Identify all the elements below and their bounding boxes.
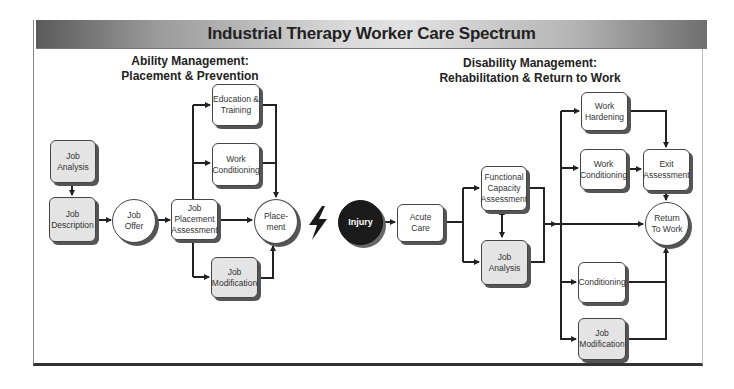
disability-heading-line1: Disability Management: bbox=[420, 56, 640, 71]
job-modification-left-label: Job Modification bbox=[212, 267, 257, 289]
job-offer-label: Job Offer bbox=[125, 210, 144, 232]
ability-management-heading: Ability Management: Placement & Preventi… bbox=[100, 54, 280, 84]
job-placement-assessment-box: Job Placement Assessment bbox=[171, 199, 218, 240]
work-conditioning-left-label: Work Conditioning bbox=[212, 154, 259, 176]
diagram-title: Industrial Therapy Worker Care Spectrum bbox=[207, 24, 535, 44]
job-modification-left-box: Job Modification bbox=[211, 257, 258, 298]
placement-circle: Place- ment bbox=[254, 199, 298, 244]
job-placement-assessment-label: Job Placement Assessment bbox=[171, 203, 217, 236]
job-analysis-label: Job Analysis bbox=[57, 151, 89, 173]
injury-circle: Injury bbox=[338, 200, 383, 245]
conditioning-box: Conditioning bbox=[578, 262, 626, 303]
disability-management-heading: Disability Management: Rehabilitation & … bbox=[420, 56, 640, 86]
job-analysis-right-label: Job Analysis bbox=[489, 252, 521, 274]
education-training-label: Education & Training bbox=[213, 94, 259, 116]
ability-heading-line1: Ability Management: bbox=[100, 54, 280, 69]
functional-capacity-assessment-box: Functional Capacity Assessment bbox=[481, 166, 527, 211]
work-conditioning-right-box: Work Conditioning bbox=[580, 149, 627, 190]
disability-heading-line2: Rehabilitation & Return to Work bbox=[420, 71, 640, 86]
conditioning-label: Conditioning bbox=[578, 277, 625, 288]
return-to-work-label: Return To Work bbox=[651, 213, 682, 235]
job-description-label: Job Description bbox=[51, 209, 94, 231]
functional-capacity-assessment-label: Functional Capacity Assessment bbox=[481, 172, 527, 205]
work-hardening-label: Work Hardening bbox=[585, 101, 624, 123]
work-hardening-box: Work Hardening bbox=[581, 92, 628, 131]
placement-label: Place- ment bbox=[264, 211, 288, 233]
education-training-box: Education & Training bbox=[212, 84, 260, 126]
work-conditioning-left-box: Work Conditioning bbox=[212, 143, 260, 186]
job-modification-right-box: Job Modification bbox=[578, 318, 626, 360]
exit-assessment-box: Exit Assessment bbox=[643, 149, 690, 191]
job-analysis-box: Job Analysis bbox=[50, 140, 96, 183]
job-modification-right-label: Job Modification bbox=[579, 328, 624, 350]
job-offer-circle: Job Offer bbox=[112, 199, 156, 243]
return-to-work-circle: Return To Work bbox=[645, 202, 689, 246]
acute-care-box: Acute Care bbox=[397, 204, 444, 242]
ability-heading-line2: Placement & Prevention bbox=[100, 69, 280, 84]
title-bar: Industrial Therapy Worker Care Spectrum bbox=[36, 20, 707, 49]
exit-assessment-label: Exit Assessment bbox=[643, 159, 689, 181]
work-conditioning-right-label: Work Conditioning bbox=[580, 159, 627, 181]
job-description-box: Job Description bbox=[49, 197, 96, 242]
injury-label: Injury bbox=[348, 217, 373, 228]
acute-care-label: Acute Care bbox=[410, 212, 432, 234]
job-analysis-right-box: Job Analysis bbox=[481, 240, 528, 285]
